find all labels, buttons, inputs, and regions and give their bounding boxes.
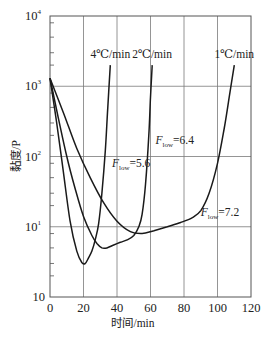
x-tick-label: 80: [178, 301, 191, 315]
y-tick-label: 101: [25, 219, 42, 234]
rate-label: 1℃/min: [214, 48, 254, 60]
y-tick-label: 103: [25, 78, 42, 93]
x-tick-label: 60: [144, 301, 157, 315]
rate-label: 2℃/min: [132, 48, 172, 60]
y-tick-labels: 10101102103104: [25, 8, 45, 304]
x-axis-label: 时间/min: [111, 317, 154, 329]
x-tick-label: 40: [111, 301, 124, 315]
x-tick-labels: 020406080100120: [47, 301, 261, 315]
viscosity-time-chart: 020406080100120 10101102103104 4℃/min2℃/…: [0, 0, 267, 338]
f-low-annotation: Flow=6.4: [155, 134, 195, 149]
x-tick-label: 20: [77, 301, 90, 315]
y-tick-label: 102: [25, 149, 42, 164]
y-tick-label: 104: [25, 8, 42, 23]
curve-series-1: [50, 65, 110, 264]
x-tick-label: 120: [242, 301, 261, 315]
y-axis-label: 黏度/P: [9, 140, 22, 172]
x-tick-label: 0: [47, 301, 53, 315]
annotations: 4℃/min2℃/min1℃/minFlow=6.4Flow=5.6Flow=7…: [90, 48, 254, 221]
rate-label: 4℃/min: [90, 48, 130, 60]
axis-ticks: [50, 23, 54, 276]
y-tick-label: 10: [33, 290, 46, 304]
x-tick-label: 100: [208, 301, 227, 315]
f-low-annotation: Flow=7.2: [200, 206, 240, 221]
